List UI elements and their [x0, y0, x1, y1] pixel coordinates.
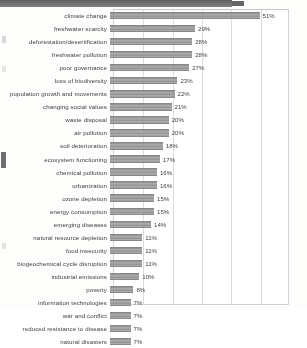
category-label: freshwater scarcity: [0, 25, 110, 32]
bar-value-label: 11%: [145, 234, 157, 241]
bar-value-label: 23%: [180, 77, 192, 84]
bar: [110, 338, 131, 345]
category-label: poor governance: [0, 64, 110, 71]
bar: [110, 299, 131, 306]
category-label: ozone depletion: [0, 195, 110, 202]
bar-track: 21%: [110, 100, 307, 113]
category-label: air pollution: [0, 129, 110, 136]
category-label: deforestation/desertification: [0, 38, 110, 45]
bar: [110, 260, 142, 267]
bar-track: 7%: [110, 309, 307, 322]
bar-row: urbanization16%: [0, 179, 307, 192]
bar: [110, 286, 133, 293]
bar-row: food insecurity11%: [0, 244, 307, 257]
bar-value-label: 14%: [154, 221, 166, 228]
bar-value-label: 15%: [157, 195, 169, 202]
bar: [110, 247, 142, 254]
category-label: poverty: [0, 286, 110, 293]
bar-row: freshwater scarcity29%: [0, 22, 307, 35]
bar: [110, 312, 131, 319]
bar-track: 17%: [110, 153, 307, 166]
bar: [110, 273, 139, 280]
category-label: emerging diseases: [0, 221, 110, 228]
category-label: changing social values: [0, 103, 110, 110]
category-label: loss of biodiversity: [0, 77, 110, 84]
bar-row: poverty8%: [0, 283, 307, 296]
bar-row: ecosystem functioning17%: [0, 153, 307, 166]
bar-row: climate change51%: [0, 9, 307, 22]
bar: [110, 234, 142, 241]
bar-track: 8%: [110, 283, 307, 296]
bar: [110, 77, 177, 84]
bar-value-label: 20%: [172, 129, 184, 136]
bar-value-label: 16%: [160, 182, 172, 189]
bar: [110, 142, 163, 149]
bar-track: 7%: [110, 335, 307, 348]
bar-row: biogeochemical cycle disruption11%: [0, 257, 307, 270]
bar-value-label: 21%: [175, 103, 187, 110]
bar-value-label: 17%: [163, 156, 175, 163]
bar-value-label: 27%: [192, 64, 204, 71]
bar-track: 28%: [110, 35, 307, 48]
bar-row: emerging diseases14%: [0, 218, 307, 231]
bar-track: 14%: [110, 218, 307, 231]
bar-row: soil deterioration18%: [0, 139, 307, 152]
bar-value-label: 20%: [172, 116, 184, 123]
bar-row: changing social values21%: [0, 100, 307, 113]
category-label: natural disasters: [0, 338, 110, 345]
category-label: ecosystem functioning: [0, 156, 110, 163]
bar-row: air pollution20%: [0, 126, 307, 139]
bar-track: 7%: [110, 296, 307, 309]
bar-row: information technologies7%: [0, 296, 307, 309]
bar: [110, 194, 154, 201]
bar-track: 11%: [110, 231, 307, 244]
bar-track: 15%: [110, 192, 307, 205]
bar-track: 22%: [110, 87, 307, 100]
bar-row: natural resource depletion11%: [0, 231, 307, 244]
bar-row: poor governance27%: [0, 61, 307, 74]
bar: [110, 90, 175, 97]
category-label: biogeochemical cycle disruption: [0, 260, 110, 267]
bar-value-label: 7%: [134, 312, 143, 319]
bar-value-label: 11%: [145, 260, 157, 267]
bar-row: natural disasters7%: [0, 335, 307, 348]
bar-track: 28%: [110, 48, 307, 61]
category-label: soil deterioration: [0, 142, 110, 149]
bar: [110, 51, 192, 58]
bar: [110, 181, 157, 188]
bar: [110, 116, 169, 123]
bar: [110, 38, 192, 45]
bar: [110, 168, 157, 175]
bar-row: loss of biodiversity23%: [0, 74, 307, 87]
category-label: information technologies: [0, 299, 110, 306]
bar-track: 20%: [110, 113, 307, 126]
bar-track: 16%: [110, 166, 307, 179]
bar-track: 15%: [110, 205, 307, 218]
bar-value-label: 7%: [134, 338, 143, 345]
bar-row: war and conflict7%: [0, 309, 307, 322]
bar: [110, 208, 154, 215]
category-label: war and conflict: [0, 312, 110, 319]
category-label: freshwater pollution: [0, 51, 110, 58]
scan-artifact-banner: [0, 0, 232, 7]
bar-chart-rows: climate change51%freshwater scarcity29%d…: [0, 9, 307, 348]
bar-track: 51%: [110, 9, 307, 22]
bar-value-label: 28%: [195, 51, 207, 58]
bar: [110, 25, 195, 32]
bar-track: 18%: [110, 139, 307, 152]
bar-value-label: 7%: [134, 325, 143, 332]
bar-track: 16%: [110, 179, 307, 192]
bar-value-label: 51%: [263, 12, 275, 19]
bar-row: deforestation/desertification28%: [0, 35, 307, 48]
bar-value-label: 15%: [157, 208, 169, 215]
category-label: energy consumption: [0, 208, 110, 215]
category-label: chemical pollution: [0, 169, 110, 176]
bar-value-label: 8%: [136, 286, 145, 293]
bar-value-label: 28%: [195, 38, 207, 45]
bar-value-label: 29%: [198, 25, 210, 32]
category-label: urbanization: [0, 182, 110, 189]
scan-artifact-banner-tail: [232, 1, 244, 6]
bar-value-label: 7%: [134, 299, 143, 306]
bar-row: reduced resistance to disease7%: [0, 322, 307, 335]
